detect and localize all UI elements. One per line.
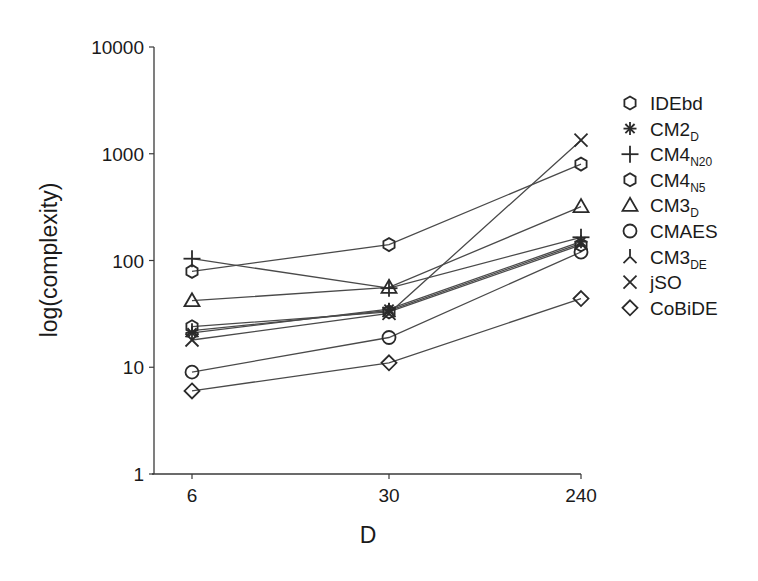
y-tick-label: 10 [123,357,144,378]
legend-item: IDEbd [624,93,702,114]
legend-label: jSO [649,272,682,293]
y-tick-label: 100 [112,251,144,272]
series-lines [192,140,581,391]
y-tick-label: 1 [133,464,144,485]
x-icon [575,134,588,147]
y-axis-title: log(complexity) [36,183,62,338]
y-tick-label: 10000 [91,37,144,58]
legend-label: CM4N20 [650,144,712,169]
legend-item: CM4N5 [624,170,705,195]
triangle-icon [623,198,638,211]
hexagon-icon [624,173,635,186]
y-tick-label: 1000 [102,144,144,165]
legend-item: CM3DE [624,247,707,272]
hexagon-icon [624,97,635,110]
legend-label: CM4N5 [650,170,706,195]
axes: 110100100010000630240 [91,37,597,506]
triangle-icon [574,199,589,212]
asterisk-icon [624,122,637,135]
legend-label: IDEbd [650,93,703,114]
circle-icon [624,225,637,238]
diamond-icon [185,383,200,398]
legend-label: CM3D [650,195,699,220]
line-chart: 110100100010000630240 IDEbdCM2DCM4N20CM4… [0,0,758,581]
x-tick-label: 30 [378,485,399,506]
legend-item: jSO [624,272,682,293]
legend-item: CM4N20 [622,144,713,169]
x-tick-label: 240 [565,485,597,506]
tri-down-icon [624,249,637,263]
series-line-cm3-d [192,207,581,301]
plus-icon [381,280,398,297]
plus-icon [622,146,639,163]
series-line-cm4-n5 [192,164,581,271]
x-tick-label: 6 [187,485,198,506]
legend-item: CoBiDE [623,298,718,319]
legend-label: CoBiDE [650,298,718,319]
legend-label: CM2D [650,119,699,144]
x-icon [624,276,637,289]
legend-label: CMAES [650,221,718,242]
circle-icon [186,366,199,379]
diamond-icon [574,291,589,306]
legend: IDEbdCM2DCM4N20CM4N5CM3DCMAESCM3DEjSOCoB… [622,93,718,319]
legend-item: CM3D [623,195,700,220]
x-axis-title: D [360,522,377,548]
diamond-icon [623,300,638,315]
legend-item: CM2D [624,119,700,144]
legend-item: CMAES [624,221,718,242]
legend-label: CM3DE [650,247,707,272]
